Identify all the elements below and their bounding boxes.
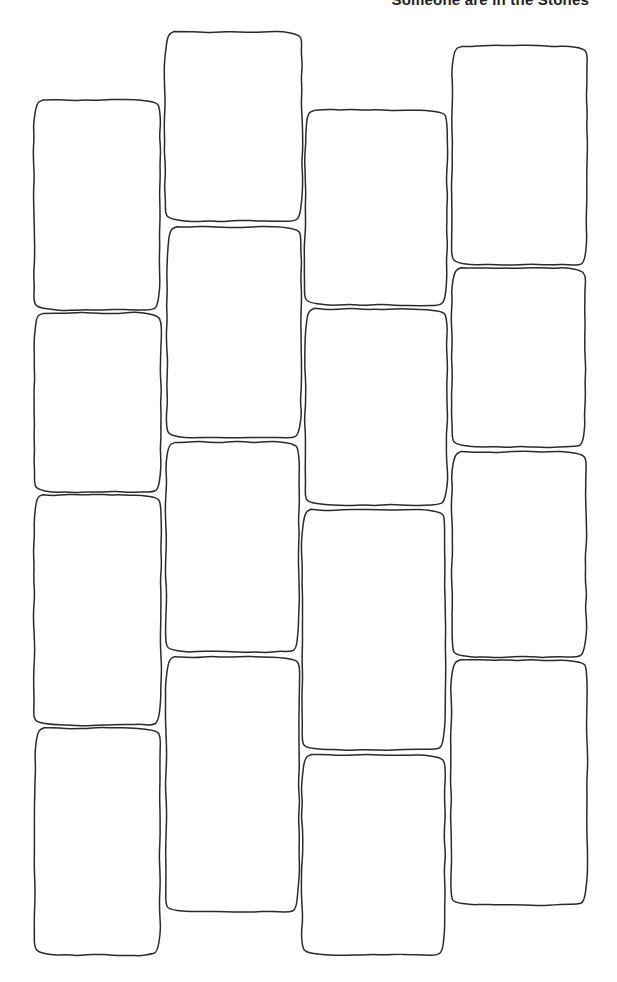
stone-outline-c1-r4 — [34, 727, 160, 955]
stone-outline-c1-r3 — [33, 494, 161, 725]
stone-outline-c1-r1 — [33, 99, 160, 310]
stone-outline-c2-r2 — [166, 226, 301, 437]
stone-outline-c3-r3 — [301, 509, 445, 750]
stone-outline-c4-r3 — [451, 451, 586, 657]
stone-outline-c3-r2 — [305, 308, 448, 505]
stone-outline-c4-r4 — [451, 660, 588, 906]
stone-outline-c4-r2 — [451, 268, 585, 448]
stone-outline-c3-r4 — [301, 754, 445, 955]
stone-outline-c2-r4 — [165, 657, 299, 913]
stone-outline-c1-r2 — [34, 312, 161, 492]
stone-outline-c2-r3 — [165, 441, 299, 652]
stone-outline-c3-r1 — [304, 110, 447, 306]
stone-outline-c4-r1 — [452, 45, 588, 265]
stone-outline-c2-r1 — [164, 32, 302, 222]
stone-wall-drawing — [0, 0, 617, 982]
